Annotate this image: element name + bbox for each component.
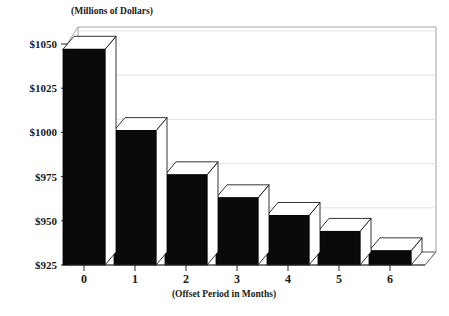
x-axis: [67, 265, 425, 271]
x-tick-label: 0: [81, 272, 87, 286]
y-tick-label: $950: [35, 215, 58, 227]
bar-front-face: [114, 131, 156, 265]
bar-column: [114, 118, 167, 265]
bar-column: [216, 185, 269, 265]
x-tick-label: 3: [234, 272, 240, 286]
y-tick-label: $1000: [30, 126, 58, 138]
bars-layer: [63, 36, 422, 265]
bar-column: [63, 36, 116, 265]
bar-column: [267, 202, 320, 265]
chart-unit-note: (Millions of Dollars): [71, 6, 153, 17]
bar-chart: $1050 $1025 $1000 $975 $950 $925 0123456…: [0, 0, 449, 316]
x-tick-label: 6: [387, 272, 393, 286]
bar-side-face: [105, 36, 116, 265]
y-tick-label: $1025: [30, 82, 58, 94]
x-tick-label: 2: [183, 272, 189, 286]
bar-front-face: [216, 198, 258, 265]
x-axis-title: (Offset Period in Months): [172, 289, 276, 300]
y-tick-label: $1050: [30, 38, 58, 50]
y-tick-label: $925: [35, 259, 58, 271]
bar-front-face: [63, 49, 105, 265]
y-tick-label: $975: [35, 171, 58, 183]
x-tick-label: 4: [285, 272, 291, 286]
bar-column: [318, 218, 371, 265]
bar-front-face: [165, 175, 207, 265]
x-tick-label: 5: [336, 272, 342, 286]
bar-column: [165, 162, 218, 265]
chart-canvas: $1050 $1025 $1000 $975 $950 $925 0123456…: [0, 0, 449, 316]
bar-front-face: [369, 251, 411, 265]
bar-front-face: [267, 215, 309, 265]
bar-side-face: [258, 185, 269, 265]
x-tick-labels: 0123456: [81, 272, 393, 286]
bar-front-face: [318, 231, 360, 265]
x-tick-label: 1: [132, 272, 138, 286]
bar-side-face: [156, 118, 167, 265]
bar-side-face: [207, 162, 218, 265]
bar-column: [369, 238, 422, 265]
y-tick-labels: $1050 $1025 $1000 $975 $950 $925: [30, 38, 58, 271]
